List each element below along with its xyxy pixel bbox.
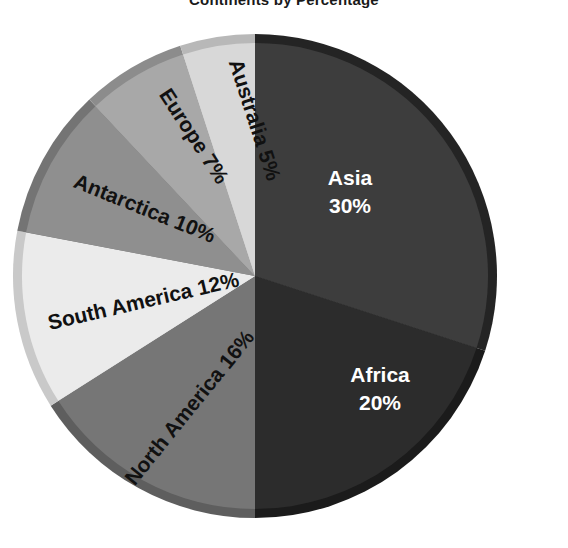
pie-chart: Asia30%Africa20%North America 16%South A… — [0, 0, 568, 548]
pie-value-africa: 20% — [359, 391, 401, 414]
pie-label-asia: Asia — [328, 166, 373, 189]
pie-chart-page: Continents by Percentage Asia30%Africa20… — [0, 0, 568, 548]
pie-label-africa: Africa — [350, 363, 410, 386]
pie-value-asia: 30% — [329, 194, 371, 217]
